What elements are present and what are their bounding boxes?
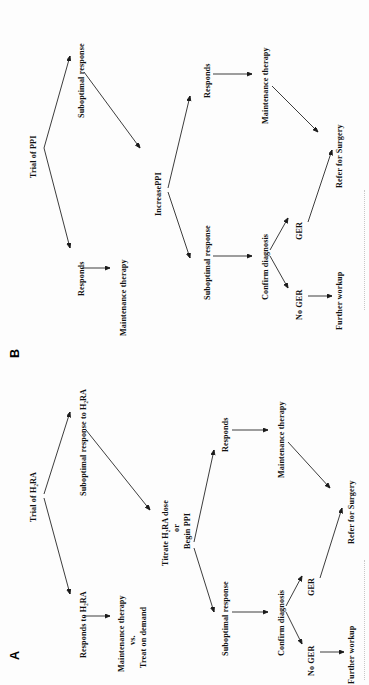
panelB-root-fork [44,56,70,248]
panelA-confirm-fork [286,576,302,644]
panelB-node-no-ger: No GER [296,290,305,320]
panelA-node-suboptimal-response-h2ra: Suboptimal response to H₂RA [80,389,89,496]
panelA-node-further-workup: Further workup [348,626,357,684]
scan-edge-rule-upper [364,190,365,310]
panelB-ger-to-surgery [308,150,332,222]
panelA-node-maintenance-therapy: Maintenance therapy [118,595,127,672]
panelB-node-responds: Responds [78,262,87,296]
panelB-node-increase-ppi: IncreasePPI [155,172,164,216]
panelB-node-confirm-diagnosis: Confirm diagnosis [262,234,271,300]
panelB-node-ger: GER [296,222,305,240]
panelA-node-titrate-h2ra-dose: Titrate H₂RA dose [162,500,171,566]
panelA-maintenance-to-surgery [288,442,330,488]
panelA-node-titrate-or: or [173,524,182,532]
panelA-node-escalation-suboptimal: Suboptimal response [222,581,231,656]
panelB-node-further-workup: Further workup [336,272,345,330]
panelA-node-escalation-responds: Responds [222,418,231,452]
panelA-node-treat-on-demand: Treat on demand [140,607,149,668]
panelB-node-escalation-maintenance: Maintenance therapy [262,47,271,124]
panelB-node-maintenance-therapy: Maintenance therapy [120,259,129,336]
panelB-node-refer-surgery: Refer for Surgery [336,124,345,188]
panelA-node-begin-ppi: Begin PPI [184,513,193,549]
panelA-titrate-fork [194,450,214,612]
scan-edge-rule-lower [364,560,365,680]
panelB-increase-fork [168,96,190,258]
panel-letter-b: B [8,349,22,358]
panelA-node-escalation-maintenance: Maintenance therapy [278,401,287,478]
panelB-node-escalation-responds: Responds [204,64,213,98]
panelA-node-no-ger: No GER [308,646,317,676]
panelA-root-fork [44,412,70,594]
panelB-node-escalation-suboptimal: Suboptimal response [204,225,213,300]
panelA-node-maintenance-vs: vs. [129,635,138,645]
panelB-confirm-fork [270,218,288,288]
panelA-node-root: Trial of H₂RA [30,472,39,522]
panelA-node-ger: GER [308,578,317,596]
panelA-ger-to-surgery [320,508,342,578]
figure-canvas: B Trial of PPI Suboptimal response Respo… [0,0,369,685]
panel-letter-a: A [8,651,22,660]
panelB-suboptimal-to-increase [84,72,140,148]
panelB-node-root: Trial of PPI [30,136,39,178]
panelA-node-refer-surgery: Refer for Surgery [348,480,357,544]
panelB-node-suboptimal-response: Suboptimal response [78,43,87,118]
panelA-node-responds-h2ra: Responds to H₂RA [80,591,89,658]
panelB-maintenance-to-surgery [272,86,318,132]
panelA-suboptimal-to-titrate [86,430,150,510]
panelA-node-confirm-diagnosis: Confirm diagnosis [278,590,287,656]
